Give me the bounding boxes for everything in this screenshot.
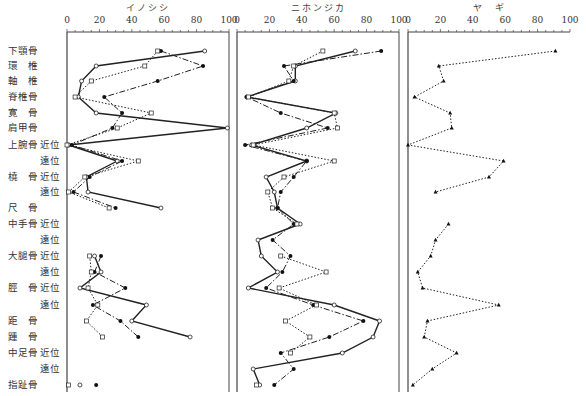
marker-filled-triangle (422, 335, 426, 339)
marker-filled-circle (120, 159, 124, 163)
series-solid-open-circle (67, 49, 230, 387)
marker-filled-triangle (450, 126, 454, 130)
x-tick-label: 0 (234, 15, 240, 25)
row-label-bone: 距 骨 (8, 315, 38, 326)
row-label-bone: 中足骨 (8, 347, 38, 358)
marker-open-circle (272, 190, 276, 194)
marker-filled-circle (282, 64, 286, 68)
marker-filled-circle (279, 111, 283, 115)
marker-filled-triangle (442, 79, 446, 83)
row-label-bone: 軸 椎 (8, 75, 38, 86)
row-label-bone: 大腿骨 (8, 250, 38, 261)
marker-filled-triangle (421, 286, 425, 290)
marker-open-square (321, 49, 325, 53)
marker-open-circle (130, 319, 134, 323)
row-label-position: 遠位 (40, 266, 60, 277)
row-label-bone: 寛 骨 (8, 107, 38, 118)
marker-open-circle (259, 254, 263, 258)
x-tick-label: 60 (158, 15, 170, 25)
marker-open-square (308, 335, 312, 339)
marker-open-square (84, 319, 88, 323)
marker-open-square (287, 79, 291, 83)
marker-filled-triangle (455, 351, 459, 355)
row-label-position: 遠位 (40, 299, 60, 310)
marker-filled-circle (276, 206, 280, 210)
marker-open-square (136, 159, 140, 163)
marker-open-circle (378, 319, 382, 323)
x-tick-label: 40 (126, 15, 138, 25)
marker-filled-circle (94, 383, 98, 387)
series-line (408, 51, 555, 192)
marker-filled-circle (279, 351, 283, 355)
marker-open-square (266, 190, 270, 194)
row-label-bone: 脛 骨 (8, 282, 38, 293)
marker-filled-triangle (448, 111, 452, 115)
row-label-position: 近位 (40, 171, 60, 182)
marker-filled-triangle (416, 270, 420, 274)
marker-filled-triangle (430, 367, 434, 371)
panel-1: ニホンジカ020406080100 (234, 3, 408, 392)
marker-open-circle (78, 383, 82, 387)
row-label-bone: 踵 骨 (8, 331, 38, 342)
panel-title: イノシシ (126, 3, 170, 13)
marker-open-square (65, 143, 69, 147)
marker-open-square (295, 222, 299, 226)
marker-open-circle (99, 270, 103, 274)
marker-filled-triangle (497, 303, 501, 307)
marker-filled-circle (114, 206, 118, 210)
marker-filled-circle (243, 143, 247, 147)
panel-2: ヤ ギ020406080100 (405, 3, 579, 392)
marker-open-circle (332, 303, 336, 307)
marker-open-circle (93, 254, 97, 258)
marker-open-square (89, 79, 93, 83)
row-label-bone: 脊椎骨 (8, 91, 38, 102)
marker-open-square (246, 95, 250, 99)
marker-filled-circle (280, 270, 284, 274)
marker-open-square (271, 206, 275, 210)
marker-open-circle (251, 367, 255, 371)
marker-filled-circle (99, 254, 103, 258)
series-line (245, 51, 381, 385)
marker-open-circle (246, 286, 250, 290)
marker-filled-circle (305, 159, 309, 163)
marker-open-circle (305, 126, 309, 130)
marker-open-square (335, 126, 339, 130)
panel-title: ヤ ギ (473, 3, 506, 13)
marker-filled-triangle (425, 319, 429, 323)
row-label-position: 遠位 (40, 234, 60, 245)
panel-title: ニホンジカ (291, 3, 346, 13)
marker-filled-circle (201, 64, 205, 68)
x-tick-label: 20 (264, 15, 276, 25)
marker-open-square (115, 126, 119, 130)
marker-open-circle (276, 270, 280, 274)
marker-filled-circle (123, 286, 127, 290)
row-label-position: 遠位 (40, 155, 60, 166)
x-tick-label: 60 (328, 15, 340, 25)
marker-open-square (314, 303, 318, 307)
marker-open-square (101, 335, 105, 339)
marker-filled-circle (264, 286, 268, 290)
marker-open-square (83, 175, 87, 179)
marker-filled-circle (292, 367, 296, 371)
marker-filled-circle (279, 190, 283, 194)
marker-filled-triangle (429, 254, 433, 258)
marker-filled-circle (272, 383, 276, 387)
row-label-bone: 環 椎 (8, 60, 38, 71)
x-tick-label: 20 (435, 15, 447, 25)
marker-open-square (251, 143, 255, 147)
row-label-bone: 指趾骨 (8, 379, 38, 390)
marker-open-square (67, 383, 71, 387)
marker-filled-circle (136, 335, 140, 339)
marker-open-circle (371, 335, 375, 339)
marker-open-square (277, 286, 281, 290)
x-tick-label: 40 (467, 15, 479, 25)
x-tick-label: 40 (296, 15, 308, 25)
marker-open-circle (78, 286, 82, 290)
x-tick-label: 0 (64, 15, 70, 25)
marker-filled-circle (71, 190, 75, 194)
x-tick-label: 0 (405, 15, 411, 25)
row-label-position: 近位 (40, 282, 60, 293)
marker-open-circle (188, 335, 192, 339)
row-labels: 下顎骨環 椎軸 椎脊椎骨寛 骨肩甲骨上腕骨近位遠位橈 骨近位遠位尺 骨中手骨近位… (8, 45, 60, 390)
marker-open-square (292, 64, 296, 68)
